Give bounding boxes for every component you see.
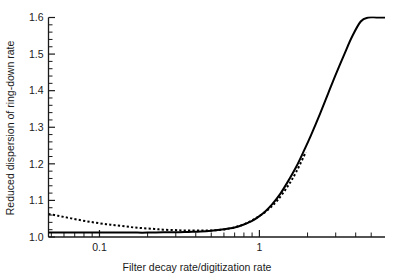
dotted-curve — [49, 152, 306, 230]
y-tick-label: 1.4 — [29, 84, 44, 96]
y-tick-label: 1.6 — [29, 11, 44, 23]
x-axis-title: Filter decay rate/digitization rate — [123, 261, 272, 273]
x-tick-label: 0.1 — [92, 241, 107, 253]
chart-plot: 1.01.11.21.31.41.51.6 0.11 Filter decay … — [0, 0, 394, 278]
axes-group — [49, 18, 386, 238]
y-tick-label: 1.1 — [29, 194, 44, 206]
x-tick-labels: 0.11 — [92, 241, 262, 253]
y-tick-label: 1.2 — [29, 158, 44, 170]
data-curves — [49, 17, 386, 232]
x-tick-label: 1 — [256, 241, 262, 253]
y-tick-label: 1.3 — [29, 121, 44, 133]
solid-curve — [49, 17, 386, 232]
y-tick-label: 1.5 — [29, 48, 44, 60]
y-axis-title: Reduced dispersion of ring-down rate — [4, 41, 16, 216]
figure-container: 1.01.11.21.31.41.51.6 0.11 Filter decay … — [0, 0, 394, 278]
y-tick-labels: 1.01.11.21.31.41.51.6 — [29, 11, 44, 243]
y-tick-label: 1.0 — [29, 231, 44, 243]
